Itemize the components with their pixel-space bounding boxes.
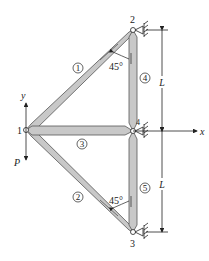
- element-label-3: 3: [80, 139, 85, 149]
- node-label-1: 1: [17, 125, 22, 136]
- support-node-3: [135, 223, 168, 239]
- element-label-5: 5: [143, 183, 148, 193]
- support-node-2: [135, 21, 168, 37]
- member-3: [26, 126, 133, 135]
- dimension-label-lower: L: [158, 179, 165, 190]
- node-label-2: 2: [130, 14, 135, 25]
- supports: [135, 21, 168, 239]
- node-label-4: 4: [136, 118, 140, 127]
- dimension-label-upper: L: [158, 77, 165, 88]
- y-axis-label: y: [20, 90, 26, 101]
- member-4: [129, 30, 137, 131]
- element-label-1: 1: [76, 63, 81, 73]
- load-label: P: [13, 157, 20, 168]
- element-label-2: 2: [76, 192, 81, 202]
- element-label-4: 4: [143, 73, 148, 83]
- member-5: [129, 131, 137, 232]
- node-label-3: 3: [130, 238, 135, 249]
- x-axis-label: x: [199, 126, 205, 137]
- angle-label-top: 45°: [109, 61, 123, 72]
- truss-diagram: 1 2 3 4 5 1 2 3 4 45° 45° L L x y P: [0, 0, 209, 261]
- angle-label-bottom: 45°: [109, 195, 123, 206]
